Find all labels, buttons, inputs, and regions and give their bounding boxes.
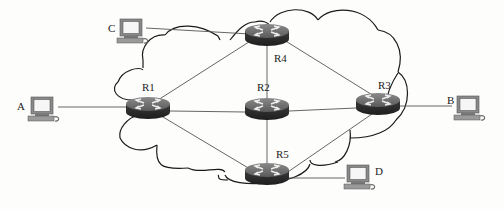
router-icon — [356, 93, 400, 115]
host-d[interactable] — [344, 165, 375, 189]
host-b[interactable] — [454, 96, 485, 120]
computer-icon — [454, 96, 485, 120]
link-r4-r3 — [284, 40, 374, 96]
host-label-d: D — [375, 165, 383, 177]
host-label-a: A — [17, 100, 25, 112]
router-label-r3: R3 — [378, 79, 391, 91]
router-r4[interactable] — [245, 24, 289, 46]
router-label-r4: R4 — [274, 52, 287, 64]
router-icon — [126, 97, 170, 119]
router-r2[interactable] — [245, 98, 289, 120]
host-label-b: B — [447, 94, 454, 106]
host-label-c: C — [108, 22, 115, 34]
link-r1-r2 — [170, 111, 245, 112]
router-label-r5: R5 — [276, 148, 289, 160]
router-label-r1: R1 — [142, 81, 155, 93]
router-r1[interactable] — [126, 97, 170, 119]
router-icon — [245, 98, 289, 120]
router-r5[interactable] — [245, 163, 289, 185]
link-r1-r5 — [158, 114, 255, 172]
computer-icon — [117, 19, 148, 43]
link-r1-r4 — [158, 40, 252, 100]
host-c[interactable] — [117, 19, 148, 43]
router-icon — [245, 163, 289, 185]
host-a[interactable] — [28, 97, 59, 121]
computer-icon — [28, 97, 59, 121]
link-c-r4 — [146, 28, 250, 34]
router-label-r2: R2 — [257, 81, 270, 93]
link-r2-r3 — [289, 108, 356, 111]
computer-icon — [344, 165, 375, 189]
router-icon — [245, 24, 289, 46]
router-r3[interactable] — [356, 93, 400, 115]
network-diagram: R4 R1 R2 R3 R5 A B C D — [0, 0, 504, 209]
